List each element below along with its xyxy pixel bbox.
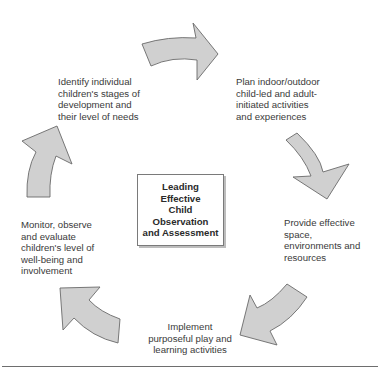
bottom-divider bbox=[2, 366, 378, 367]
arrow-up-icon bbox=[22, 126, 72, 197]
step-plan-text: Plan indoor/outdoor child-led and adult-… bbox=[236, 76, 346, 122]
step-monitor-text: Monitor, observe and evaluate children's… bbox=[21, 219, 121, 277]
arrow-down-left-icon bbox=[240, 284, 307, 345]
arrow-down-icon bbox=[286, 133, 349, 199]
arrow-up-left-icon bbox=[60, 287, 120, 343]
center-title: Leading Effective Child Observation and … bbox=[143, 181, 219, 239]
step-provide-text: Provide effective space, environments an… bbox=[284, 217, 379, 263]
arrow-right-icon bbox=[142, 23, 218, 80]
step-identify-text: Identify individual children's stages of… bbox=[58, 76, 168, 122]
step-implement-text: Implement purposeful play and learning a… bbox=[130, 321, 250, 356]
center-title-box: Leading Effective Child Observation and … bbox=[137, 174, 224, 246]
